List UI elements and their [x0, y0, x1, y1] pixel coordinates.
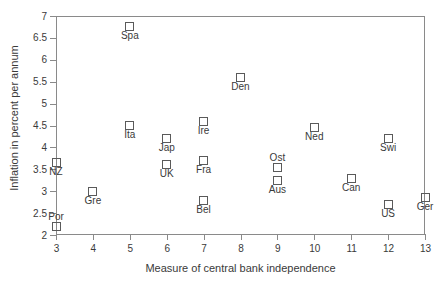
y-tick-label: 5.5 — [33, 77, 47, 87]
data-point-label-por: Por — [48, 212, 64, 222]
x-tick-label: 3 — [54, 244, 60, 254]
data-point-label-nz: NZ — [49, 167, 62, 177]
y-tick-6.5: 6.5 — [50, 38, 57, 39]
data-point-can[interactable]: Can — [347, 174, 356, 183]
plot-area: 22.533.544.555.566.57 345678910111213 NZ… — [56, 16, 425, 235]
y-tick-label: 2 — [41, 231, 47, 241]
y-tick-4: 4 — [50, 147, 57, 148]
data-point-fra[interactable]: Fra — [199, 156, 208, 165]
y-tick-label: 4 — [41, 143, 47, 153]
data-point-label-ire: Ire — [198, 126, 210, 136]
x-tick-label: 8 — [238, 244, 244, 254]
data-point-label-aus: Aus — [269, 185, 286, 195]
x-tick-label: 7 — [201, 244, 207, 254]
data-point-label-can: Can — [342, 183, 360, 193]
y-tick-label: 3 — [41, 187, 47, 197]
x-tick-label: 11 — [346, 244, 356, 254]
y-tick-5: 5 — [50, 104, 57, 105]
x-tick-8: 8 — [241, 234, 242, 240]
data-point-spa[interactable]: Spa — [125, 22, 134, 31]
data-point-label-jap: Jap — [159, 143, 175, 153]
x-tick-label: 9 — [275, 244, 281, 254]
data-point-ita[interactable]: Ita — [125, 121, 134, 130]
data-point-label-bel: Bel — [196, 205, 210, 215]
data-point-label-gre: Gre — [85, 196, 102, 206]
y-tick-label: 3.5 — [33, 165, 47, 175]
data-point-label-ger: Ger — [417, 202, 434, 212]
x-tick-label: 12 — [383, 244, 394, 254]
x-tick-10: 10 — [314, 234, 315, 240]
x-tick-7: 7 — [204, 234, 205, 240]
data-point-ned[interactable]: Ned — [310, 123, 319, 132]
data-point-ger[interactable]: Ger — [421, 193, 430, 202]
data-point-us[interactable]: US — [384, 200, 393, 209]
scatter-chart-figure: 22.533.544.555.566.57 345678910111213 NZ… — [0, 0, 444, 286]
data-point-nz[interactable]: NZ — [52, 158, 61, 167]
x-tick-label: 13 — [420, 244, 431, 254]
y-tick-label: 5 — [41, 99, 47, 109]
data-point-den[interactable]: Den — [236, 73, 245, 82]
x-tick-3: 3 — [56, 234, 57, 240]
data-point-ire[interactable]: Ire — [199, 117, 208, 126]
data-point-label-fra: Fra — [196, 165, 211, 175]
data-point-swi[interactable]: Swi — [384, 134, 393, 143]
y-tick-3: 3 — [50, 191, 57, 192]
x-tick-13: 13 — [425, 234, 426, 240]
data-point-label-den: Den — [231, 82, 249, 92]
x-tick-label: 6 — [164, 244, 170, 254]
data-point-label-ita: Ita — [124, 130, 135, 140]
x-tick-label: 4 — [91, 244, 97, 254]
y-tick-label: 4.5 — [33, 121, 47, 131]
x-tick-label: 10 — [309, 244, 320, 254]
data-point-por[interactable]: Por — [52, 222, 61, 231]
data-point-label-swi: Swi — [380, 143, 396, 153]
data-point-jap[interactable]: Jap — [162, 134, 171, 143]
axis-top-border — [56, 16, 425, 17]
x-tick-9: 9 — [277, 234, 278, 240]
x-tick-label: 5 — [128, 244, 134, 254]
data-point-aus[interactable]: Aus — [273, 176, 282, 185]
x-tick-6: 6 — [167, 234, 168, 240]
data-point-uk[interactable]: UK — [162, 160, 171, 169]
y-tick-label: 6 — [41, 55, 47, 65]
x-tick-5: 5 — [130, 234, 131, 240]
data-point-gre[interactable]: Gre — [88, 187, 97, 196]
data-point-ost[interactable]: Ost — [273, 163, 282, 172]
data-point-label-us: US — [381, 209, 395, 219]
x-tick-12: 12 — [388, 234, 389, 240]
data-point-label-uk: UK — [160, 169, 174, 179]
x-tick-4: 4 — [93, 234, 94, 240]
x-axis-title: Measure of central bank independence — [56, 262, 425, 274]
y-tick-5.5: 5.5 — [50, 82, 57, 83]
y-tick-label: 7 — [41, 12, 47, 22]
y-tick-7: 7 — [50, 16, 57, 17]
data-point-label-ost: Ost — [270, 153, 286, 163]
y-axis-title: Inflation in percent per annum — [8, 18, 20, 218]
x-tick-11: 11 — [351, 234, 352, 240]
data-point-label-ned: Ned — [305, 132, 323, 142]
y-tick-label: 2.5 — [33, 209, 47, 219]
y-tick-label: 6.5 — [33, 33, 47, 43]
y-tick-4.5: 4.5 — [50, 126, 57, 127]
data-point-bel[interactable]: Bel — [199, 196, 208, 205]
y-tick-6: 6 — [50, 60, 57, 61]
data-point-label-spa: Spa — [121, 31, 139, 41]
